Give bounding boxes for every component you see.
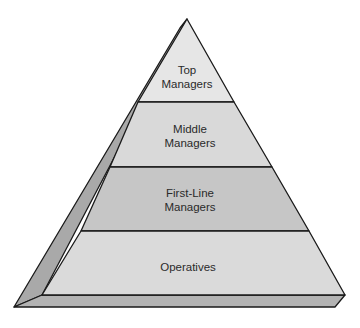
layer-operatives-label: Operatives xyxy=(160,260,216,274)
layer-middle-label-line2: Managers xyxy=(164,136,215,150)
pyramid-base-slab xyxy=(14,295,345,307)
pyramid-diagram: Top Managers Middle Managers First-Line … xyxy=(0,0,360,328)
layer-middle-label-line1: Middle xyxy=(164,122,215,136)
layer-first-line-label: First-Line Managers xyxy=(164,186,215,214)
pyramid-graphic xyxy=(0,0,360,328)
layer-top-label-line2: Managers xyxy=(161,77,212,91)
layer-middle-label: Middle Managers xyxy=(164,122,215,150)
layer-top-label-line1: Top xyxy=(161,63,212,77)
layer-first-line-label-line2: Managers xyxy=(164,200,215,214)
layer-top-label: Top Managers xyxy=(161,63,212,91)
layer-operatives-label-line1: Operatives xyxy=(160,260,216,274)
layer-first-line-label-line1: First-Line xyxy=(164,186,215,200)
